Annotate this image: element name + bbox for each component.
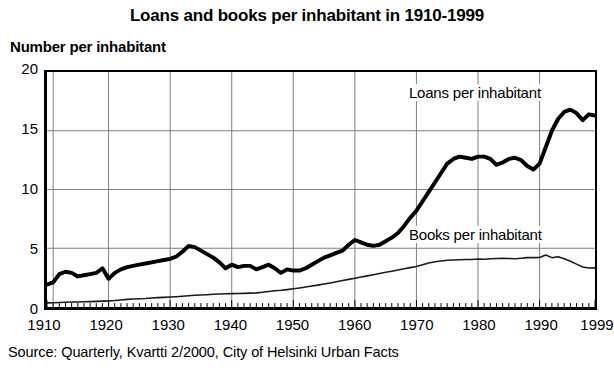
y-tick-label: 10 [4, 180, 38, 197]
x-tick-label: 1930 [138, 316, 198, 333]
x-tick-label: 1980 [449, 316, 509, 333]
y-tick-label: 0 [4, 300, 38, 317]
y-tick-label: 5 [4, 240, 38, 257]
series-lines [47, 110, 595, 303]
x-tick-label: 1970 [387, 316, 447, 333]
gridlines [47, 72, 595, 307]
x-tick-label: 1910 [14, 316, 74, 333]
series-line-books [47, 255, 595, 303]
minor-tick-marks [47, 300, 595, 307]
plot-svg [47, 72, 595, 307]
chart-container: Loans and books per inhabitant in 1910-1… [0, 0, 614, 368]
series-label-loans: Loans per inhabitant [407, 84, 543, 101]
y-axis-label: Number per inhabitant [10, 38, 166, 55]
chart-title: Loans and books per inhabitant in 1910-1… [0, 6, 614, 26]
x-tick-label: 1999 [567, 316, 614, 333]
series-label-books: Books per inhabitant [407, 226, 544, 243]
x-tick-label: 1940 [200, 316, 260, 333]
x-tick-label: 1990 [511, 316, 571, 333]
x-tick-label: 1920 [76, 316, 136, 333]
plot-area [44, 70, 597, 310]
y-tick-label: 15 [4, 120, 38, 137]
x-tick-label: 1960 [325, 316, 385, 333]
source-note: Source: Quarterly, Kvartti 2/2000, City … [8, 344, 399, 360]
x-tick-label: 1950 [263, 316, 323, 333]
y-tick-label: 20 [4, 60, 38, 77]
